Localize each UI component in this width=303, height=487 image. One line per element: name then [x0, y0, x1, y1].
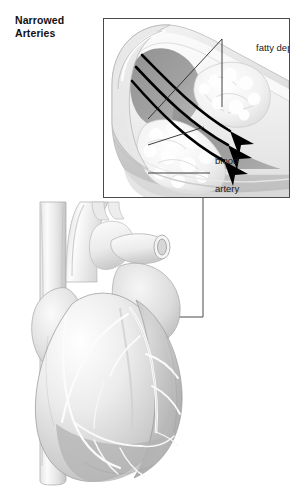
label-artery: artery	[215, 183, 239, 194]
pulmonary-artery-lumen	[158, 239, 167, 255]
heart-illustration	[0, 196, 200, 487]
illustration-canvas: Narrowed Arteries	[0, 0, 303, 487]
artery-cross-section-inset: fatty deposits blood artery	[103, 18, 290, 198]
label-blood: blood	[215, 155, 238, 166]
label-fatty-deposits: fatty deposits	[256, 42, 290, 53]
